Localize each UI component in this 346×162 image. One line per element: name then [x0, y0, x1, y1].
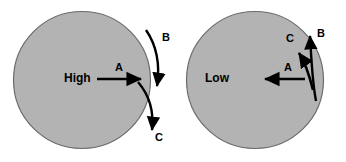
diagram-panel-right: Low A B C	[173, 0, 346, 162]
right-arrow-a-label: A	[284, 62, 292, 73]
left-arrow-c-label: C	[155, 132, 163, 143]
right-state-label: Low	[205, 72, 229, 84]
right-arrow-c-label: C	[286, 33, 294, 44]
left-arrow-a-label: A	[115, 62, 123, 73]
diagram-panel-left: High A B C	[0, 0, 173, 162]
left-arrow-b-label: B	[162, 32, 170, 43]
left-state-label: High	[64, 72, 91, 84]
right-arrow-b-label: B	[317, 28, 325, 39]
right-panel-graphics	[173, 0, 346, 162]
diagram-canvas: High A B C Low A B C	[0, 0, 346, 162]
